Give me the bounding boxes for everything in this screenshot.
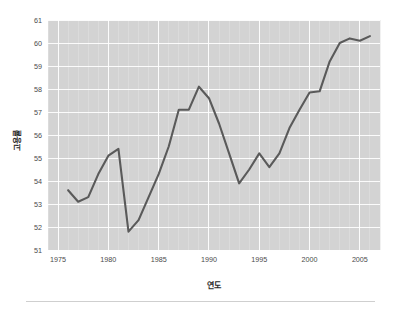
x-tick-label: 1995 <box>251 255 267 264</box>
x-tick-label: 1980 <box>100 255 116 264</box>
y-tick-label: 55 <box>34 154 42 163</box>
y-tick-label: 60 <box>34 39 42 48</box>
x-tick-label: 1985 <box>151 255 167 264</box>
x-tick-label: 1975 <box>50 255 66 264</box>
chart-figure: 5152535455565758596061 19751980198519901… <box>0 0 401 311</box>
x-axis-title: 연도 <box>207 280 222 290</box>
y-tick-label: 52 <box>34 223 42 232</box>
y-axis-title: 고용률 <box>12 129 22 151</box>
y-tick-label: 53 <box>34 200 42 209</box>
x-tick-label: 1990 <box>201 255 217 264</box>
line-chart: 5152535455565758596061 19751980198519901… <box>0 0 401 311</box>
y-tick-label: 57 <box>34 108 42 117</box>
y-tick-label: 51 <box>34 246 42 255</box>
y-tick-label: 58 <box>34 85 42 94</box>
x-tick-label: 2000 <box>302 255 318 264</box>
y-tick-label: 61 <box>34 16 42 25</box>
x-tick-label: 2005 <box>352 255 368 264</box>
y-tick-label: 59 <box>34 62 42 71</box>
y-tick-label: 56 <box>34 131 42 140</box>
y-tick-label: 54 <box>34 177 42 186</box>
